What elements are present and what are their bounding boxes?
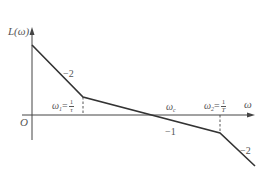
omega2-equals: = bbox=[214, 100, 220, 111]
omega1-symbol: ω bbox=[52, 100, 59, 111]
omega1-fraction: 1τ bbox=[69, 99, 75, 114]
omega1-label: ω1=1τ bbox=[52, 99, 74, 114]
slope-label-2: −1 bbox=[165, 127, 176, 137]
slope-label-3: −2 bbox=[240, 146, 251, 156]
bode-plot-canvas bbox=[0, 0, 265, 182]
omega1-denominator: τ bbox=[70, 107, 73, 114]
omega2-symbol: ω bbox=[204, 100, 211, 111]
x-axis-arrow-icon bbox=[247, 113, 255, 118]
omega-c-subscript: c bbox=[173, 107, 176, 113]
omega2-denominator: T bbox=[222, 107, 226, 114]
omega2-fraction: 1T bbox=[221, 99, 227, 114]
y-axis-arrow-icon bbox=[30, 27, 35, 35]
omega1-equals: = bbox=[62, 100, 68, 111]
omega-c-label: ωc bbox=[166, 102, 176, 113]
origin-label: O bbox=[20, 117, 28, 128]
y-axis-label: L(ω) bbox=[8, 26, 29, 37]
omega-c-symbol: ω bbox=[166, 101, 173, 112]
omega2-label: ω2=1T bbox=[204, 99, 226, 114]
x-axis-label: ω bbox=[244, 99, 252, 110]
slope-label-1: −2 bbox=[63, 69, 74, 79]
